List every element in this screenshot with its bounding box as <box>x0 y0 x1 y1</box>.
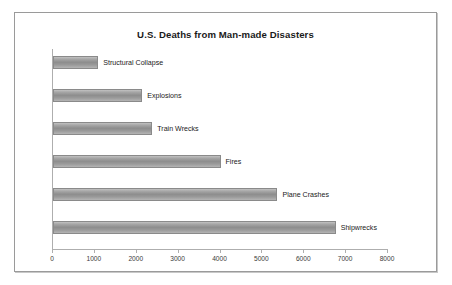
x-axis-tick-label: 1000 <box>87 255 102 262</box>
y-axis-line <box>52 49 53 249</box>
x-axis-tick-label: 3000 <box>170 255 185 262</box>
bar-row[interactable]: Structural Collapse <box>53 56 388 69</box>
chart-frame: U.S. Deaths from Man-made Disasters 0100… <box>14 12 437 272</box>
bar-row[interactable]: Train Wrecks <box>53 122 388 135</box>
x-axis-tick-label: 6000 <box>296 255 311 262</box>
plot-area: 010002000300040005000600070008000 Struct… <box>52 49 387 249</box>
x-axis-tick <box>345 249 346 253</box>
x-axis-tick-label: 4000 <box>212 255 227 262</box>
x-axis-tick <box>303 249 304 253</box>
x-axis-tick-label: 5000 <box>254 255 269 262</box>
x-axis-tick <box>178 249 179 253</box>
bar[interactable] <box>53 221 336 234</box>
bar[interactable] <box>53 89 142 102</box>
chart-title: U.S. Deaths from Man-made Disasters <box>15 29 436 40</box>
x-axis-tick <box>94 249 95 253</box>
x-axis-tick <box>261 249 262 253</box>
x-axis-tick <box>220 249 221 253</box>
bar-row[interactable]: Plane Crashes <box>53 188 388 201</box>
bar-category-label: Explosions <box>147 92 181 100</box>
bar[interactable] <box>53 188 277 201</box>
bar-category-label: Plane Crashes <box>282 191 329 199</box>
x-axis-tick <box>136 249 137 253</box>
x-axis-tick-label: 8000 <box>380 255 395 262</box>
bar[interactable] <box>53 122 152 135</box>
x-axis-tick-label: 2000 <box>128 255 143 262</box>
bar-row[interactable]: Explosions <box>53 89 388 102</box>
x-axis-tick-label: 7000 <box>338 255 353 262</box>
bar-category-label: Shipwrecks <box>341 224 377 232</box>
x-axis-tick <box>387 249 388 253</box>
bar-category-label: Train Wrecks <box>157 125 198 133</box>
x-axis-tick <box>52 249 53 253</box>
bar-category-label: Fires <box>226 158 242 166</box>
bar[interactable] <box>53 56 98 69</box>
x-axis-tick-label: 0 <box>50 255 54 262</box>
bar-row[interactable]: Shipwrecks <box>53 221 388 234</box>
bar-category-label: Structural Collapse <box>103 59 163 67</box>
bar[interactable] <box>53 155 221 168</box>
bar-row[interactable]: Fires <box>53 155 388 168</box>
